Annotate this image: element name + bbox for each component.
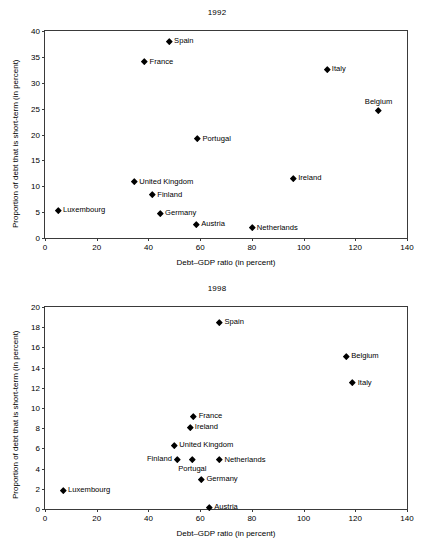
x-tick-label: 40	[144, 514, 153, 523]
data-point-label: France	[150, 58, 174, 66]
data-point-label: Spain	[225, 318, 244, 326]
x-tick	[97, 509, 98, 512]
scatter-layer-1992: SpainFranceItalyBelgiumPortugalIrelandUn…	[45, 31, 407, 238]
plot-area-1992: SpainFranceItalyBelgiumPortugalIrelandUn…	[44, 30, 408, 239]
x-tick-label: 80	[247, 243, 256, 252]
diamond-marker-icon	[131, 178, 137, 184]
x-tick-label: 0	[43, 243, 47, 252]
y-tick	[42, 368, 45, 369]
diamond-marker-icon	[141, 58, 147, 64]
y-tick	[42, 135, 45, 136]
chart-title-1992: 1992	[0, 8, 434, 17]
x-tick-label: 60	[196, 243, 205, 252]
data-point-label: Spain	[174, 38, 193, 46]
diamond-marker-icon	[194, 135, 200, 141]
y-tick	[42, 388, 45, 389]
data-point-label: Germany	[165, 209, 196, 217]
x-tick	[304, 509, 305, 512]
y-tick	[42, 448, 45, 449]
data-point-label: Portugal	[203, 135, 231, 143]
x-tick-label: 0	[43, 514, 47, 523]
x-tick	[148, 238, 149, 241]
x-tick-label: 20	[92, 514, 101, 523]
x-tick-label: 20	[92, 243, 101, 252]
diamond-marker-icon	[324, 66, 330, 72]
data-point-label: Austria	[201, 220, 225, 228]
x-tick	[45, 509, 46, 512]
diamond-marker-icon	[198, 476, 204, 482]
y-axis-title-1998: Proportion of debt that is short-term (i…	[11, 330, 20, 499]
x-tick	[97, 238, 98, 241]
diamond-marker-icon	[375, 107, 381, 113]
y-tick	[42, 347, 45, 348]
y-tick	[42, 186, 45, 187]
y-tick-label: 15	[31, 156, 40, 165]
y-tick-label: 0	[36, 505, 40, 514]
diamond-marker-icon	[55, 207, 61, 213]
y-tick-label: 20	[31, 130, 40, 139]
y-tick-label: 12	[31, 383, 40, 392]
y-tick	[42, 307, 45, 308]
x-tick-label: 140	[400, 243, 413, 252]
x-tick	[355, 509, 356, 512]
y-tick-label: 20	[31, 303, 40, 312]
y-tick-label: 35	[31, 52, 40, 61]
diamond-marker-icon	[171, 442, 177, 448]
chart-title-1998: 1998	[0, 284, 434, 293]
data-point-label: United Kingdom	[139, 178, 193, 186]
y-tick-label: 8	[36, 424, 40, 433]
y-tick	[42, 160, 45, 161]
data-point-label: Germany	[206, 475, 237, 483]
data-point-label: Portugal	[178, 465, 206, 473]
diamond-marker-icon	[174, 456, 180, 462]
diamond-marker-icon	[157, 210, 163, 216]
diamond-marker-icon	[216, 456, 222, 462]
diamond-marker-icon	[249, 224, 255, 230]
y-tick	[42, 489, 45, 490]
data-point-label: Netherlands	[225, 456, 266, 464]
y-tick-label: 16	[31, 343, 40, 352]
x-tick-label: 140	[400, 514, 413, 523]
y-tick	[42, 109, 45, 110]
diamond-marker-icon	[60, 487, 66, 493]
diamond-marker-icon	[343, 353, 349, 359]
x-tick	[252, 238, 253, 241]
diamond-marker-icon	[216, 319, 222, 325]
data-point-label: Ireland	[195, 423, 218, 431]
x-tick	[407, 509, 408, 512]
x-tick	[200, 509, 201, 512]
diamond-marker-icon	[193, 221, 199, 227]
y-tick-label: 6	[36, 444, 40, 453]
x-tick	[407, 238, 408, 241]
data-point-label: Netherlands	[257, 224, 298, 232]
x-tick-label: 60	[196, 514, 205, 523]
data-point-label: Luxembourg	[68, 487, 110, 495]
y-tick-label: 5	[36, 208, 40, 217]
y-tick-label: 4	[36, 464, 40, 473]
y-tick-label: 2	[36, 484, 40, 493]
y-tick	[42, 31, 45, 32]
x-tick-label: 100	[297, 514, 310, 523]
x-tick	[200, 238, 201, 241]
x-tick	[252, 509, 253, 512]
x-tick-label: 40	[144, 243, 153, 252]
diamond-marker-icon	[187, 424, 193, 430]
y-tick	[42, 212, 45, 213]
y-tick	[42, 83, 45, 84]
y-tick-label: 14	[31, 363, 40, 372]
y-tick-label: 25	[31, 104, 40, 113]
diamond-marker-icon	[149, 191, 155, 197]
figure-root: 1992 SpainFranceItalyBelgiumPortugalIrel…	[0, 0, 434, 541]
y-tick	[42, 57, 45, 58]
y-tick-label: 30	[31, 78, 40, 87]
data-point-label: Ireland	[298, 175, 321, 183]
y-tick	[42, 469, 45, 470]
data-point-label: United Kingdom	[179, 442, 233, 450]
y-tick	[42, 408, 45, 409]
x-tick-label: 120	[349, 514, 362, 523]
y-tick-label: 0	[36, 234, 40, 243]
data-point-label: Finland	[157, 191, 182, 199]
x-tick-label: 80	[247, 514, 256, 523]
x-axis-title-1992: Debt–GDP ratio (in percent)	[44, 258, 408, 267]
y-tick	[42, 327, 45, 328]
